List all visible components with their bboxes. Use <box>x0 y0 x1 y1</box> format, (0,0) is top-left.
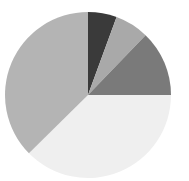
pie-chart <box>0 0 189 181</box>
